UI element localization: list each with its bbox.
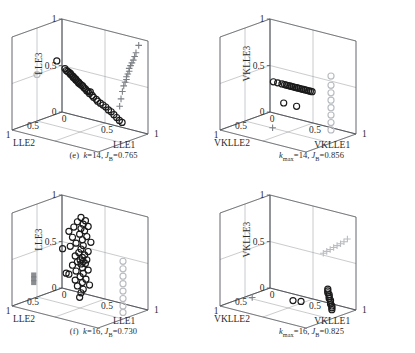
z-tick-label: 0: [52, 107, 57, 117]
marker-circle: [88, 239, 94, 245]
z-tick-label: 1: [52, 190, 57, 200]
x-tick-label: 1: [154, 129, 159, 139]
plotbox-panel-f: 00.510.5100.51LLE3LLE2LLE1: [0, 176, 207, 328]
y-axis-label: LLE2: [13, 138, 35, 148]
marker-circle: [328, 73, 334, 79]
marker-plus: [269, 124, 276, 131]
series-wall-shadow: [328, 73, 334, 133]
x-tick-label: 0.5: [101, 125, 113, 135]
caption-panel-e: (e) k=14, JB=0.765: [0, 150, 207, 162]
marker-circle: [120, 258, 126, 264]
series-cluster-plus: [269, 124, 276, 131]
series-cluster-plus: [31, 272, 36, 285]
caption-k-value: =14,: [294, 150, 310, 160]
z-axis-label: VKLLE3: [242, 45, 252, 81]
caption-j-value: =0.856: [320, 150, 345, 160]
marker-circle: [120, 266, 126, 272]
plotbox-panel-e-right: 00.510.5100.51VKLLE3VKLLE2VKLLE1: [208, 0, 415, 152]
caption-j-value: =0.825: [320, 326, 345, 336]
x-tick-label: 1: [362, 129, 367, 139]
series-cluster-circles: [60, 214, 94, 300]
marker-plus: [120, 83, 127, 90]
panel-e-right: 00.510.5100.51VKLLE3VKLLE2VKLLE1kmax=14,…: [208, 0, 415, 176]
y-tick-label: 0.5: [235, 121, 247, 131]
x-tick-label: 0: [62, 114, 67, 124]
marker-circle: [69, 234, 75, 240]
y-tick-label: 1: [6, 130, 11, 140]
z-tick-label: 1: [260, 14, 265, 24]
marker-circle: [328, 119, 334, 125]
z-axis-label: LLE3: [34, 228, 44, 250]
data-markers: [249, 236, 351, 313]
marker-circle: [86, 282, 92, 288]
marker-circle: [290, 298, 296, 304]
marker-circle: [120, 288, 126, 294]
marker-circle: [120, 281, 126, 287]
marker-circle: [328, 112, 334, 118]
y-axis-label: LLE2: [13, 314, 35, 324]
data-markers: [269, 73, 334, 133]
z-tick-label: 0.5: [253, 237, 265, 247]
marker-square: [31, 280, 36, 285]
marker-circle: [120, 295, 126, 301]
y-tick-label: 0.5: [235, 297, 247, 307]
marker-circle: [328, 97, 334, 103]
y-tick-label: 0.5: [27, 121, 39, 131]
caption-k-subscript: max: [283, 155, 294, 162]
x-tick-label: 0.5: [309, 301, 321, 311]
x-tick-label: 0: [270, 114, 275, 124]
panel-e: 00.510.5100.51LLE3LLE2LLE1(e) k=14, JB=0…: [0, 0, 207, 176]
caption-panel-f: (f) k=16, JB=0.730: [0, 326, 207, 338]
marker-circle: [281, 100, 287, 106]
x-axis-label: LLE1: [113, 140, 135, 150]
marker-circle: [275, 80, 281, 86]
z-tick-label: 0.5: [45, 237, 57, 247]
marker-circle: [328, 90, 334, 96]
x-tick-label: 0.5: [101, 301, 113, 311]
z-tick-label: 0.5: [253, 61, 265, 71]
z-tick-label: 1: [52, 14, 57, 24]
series-cluster-plus: [116, 42, 142, 109]
marker-circle: [120, 309, 126, 315]
caption-panel-f-right: kmax=16, JB=0.825: [208, 326, 415, 338]
z-tick-label: 0: [260, 107, 265, 117]
marker-circle: [328, 105, 334, 111]
axis-text: 00.510.5100.51VKLLE3VKLLE2VKLLE1: [214, 190, 367, 326]
marker-circle: [67, 243, 73, 249]
marker-circle: [66, 228, 72, 234]
data-markers: [34, 42, 142, 125]
series-wall-shadow: [320, 236, 351, 257]
marker-circle: [85, 248, 91, 254]
caption-index: (e): [69, 150, 79, 160]
y-axis-label: VKLLE2: [214, 314, 250, 324]
z-tick-label: 0: [260, 283, 265, 293]
plot-panel-f-right: 00.510.5100.51VKLLE3VKLLE2VKLLE1: [208, 176, 415, 328]
x-axis-label: VKLLE1: [314, 316, 350, 326]
plot-panel-e-right: 00.510.5100.51VKLLE3VKLLE2VKLLE1: [208, 0, 415, 152]
marker-circle: [328, 82, 334, 88]
caption-index: (f): [70, 326, 79, 336]
marker-circle: [83, 276, 89, 282]
x-tick-label: 0: [62, 290, 67, 300]
marker-plus: [119, 88, 126, 95]
marker-circle: [60, 246, 66, 252]
z-tick-label: 0: [52, 283, 57, 293]
z-tick-label: 1: [260, 190, 265, 200]
plotbox-panel-e: 00.510.5100.51LLE3LLE2LLE1: [0, 0, 207, 152]
caption-k-value: =14,: [87, 150, 103, 160]
z-axis-label: LLE3: [34, 52, 44, 74]
marker-circle: [294, 103, 300, 109]
x-axis-label: VKLLE1: [314, 140, 350, 150]
figure-root: 00.510.5100.51LLE3LLE2LLE1(e) k=14, JB=0…: [0, 0, 415, 353]
panel-f-right: 00.510.5100.51VKLLE3VKLLE2VKLLE1kmax=16,…: [208, 176, 415, 352]
caption-k-value: =16,: [294, 326, 310, 336]
y-axis-label: VKLLE2: [214, 138, 250, 148]
x-tick-label: 1: [154, 305, 159, 315]
series-cluster-circles: [270, 79, 315, 110]
marker-circle: [74, 283, 80, 289]
plot-panel-e: 00.510.5100.51LLE3LLE2LLE1: [0, 0, 207, 152]
caption-k-subscript: max: [283, 331, 294, 338]
marker-plus: [118, 96, 125, 103]
marker-circle: [72, 277, 78, 283]
caption-k-value: =16,: [87, 326, 103, 336]
